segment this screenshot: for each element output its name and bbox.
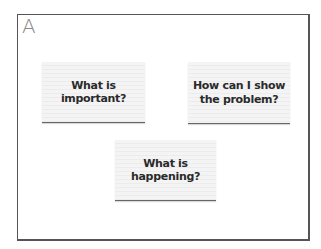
panel-frame xyxy=(17,14,310,241)
card-text: How can I show the problem? xyxy=(188,79,290,105)
card-what-is-important: What is important? xyxy=(42,62,145,123)
card-text: What is happening? xyxy=(115,157,216,183)
card-text: What is important? xyxy=(42,79,145,105)
card-how-can-i-show: How can I show the problem? xyxy=(188,62,290,124)
panel-label: A xyxy=(22,16,36,36)
card-what-is-happening: What is happening? xyxy=(115,140,216,201)
